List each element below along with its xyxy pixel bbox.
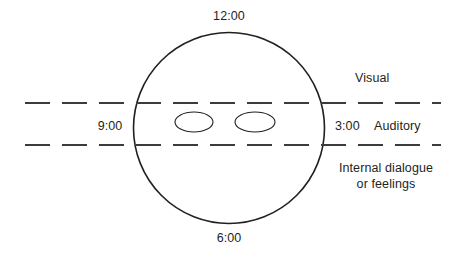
zone-label-internal-line2: or feelings: [331, 177, 441, 193]
zone-label-internal-line1: Internal dialogue: [339, 161, 433, 175]
clock-label-9-oclock: 9:00: [90, 119, 130, 133]
zone-label-internal-dialogue: Internal dialogueor feelings: [331, 161, 441, 192]
zone-label-auditory: Auditory: [374, 119, 421, 133]
clock-label-12-oclock: 12:00: [196, 9, 262, 23]
clock-label-6-oclock: 6:00: [196, 231, 262, 245]
diagram-canvas: 12:00 6:00 9:00 3:00 Visual Auditory Int…: [0, 0, 452, 257]
zone-label-visual: Visual: [355, 71, 389, 85]
clock-label-3-oclock: 3:00: [335, 119, 365, 133]
